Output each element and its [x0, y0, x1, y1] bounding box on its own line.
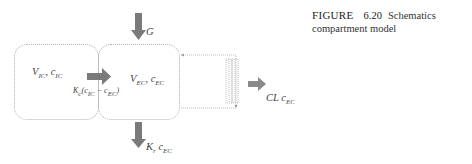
figure-caption: FIGURE6.20Schematics compartment model	[312, 9, 472, 35]
clearance-arrow-icon	[248, 77, 266, 91]
transfer-label: Kc(cIC − cEC)	[73, 86, 119, 98]
clearance-loop	[181, 55, 238, 108]
caption-label: FIGURE	[312, 9, 354, 21]
clearance-label: CL cEC	[266, 92, 295, 106]
renal-label: Kr cEC	[146, 141, 172, 155]
caption-text-line2: compartment model	[312, 23, 396, 34]
input-label: G	[146, 26, 154, 37]
caption-number: 6.20	[364, 10, 382, 21]
transfer-arrow-icon	[87, 68, 111, 85]
input-arrow-icon	[131, 13, 146, 40]
caption-text: Schematics	[388, 10, 436, 21]
renal-arrow-icon	[131, 122, 146, 148]
